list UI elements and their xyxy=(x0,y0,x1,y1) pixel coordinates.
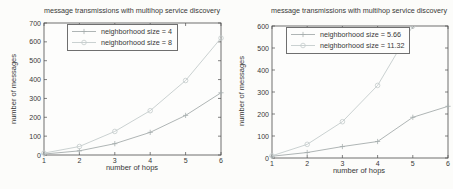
y-tick-label: 500 xyxy=(29,57,41,64)
y-tick-label: 600 xyxy=(257,23,269,30)
x-tick-label: 5 xyxy=(184,157,188,164)
x-tick-label: 2 xyxy=(77,157,81,164)
x-axis-label: number of hops xyxy=(106,163,158,172)
x-tick-label: 6 xyxy=(219,157,223,164)
chart-right: 1234560100200300400500600 message transm… xyxy=(227,0,453,189)
legend: neighborhood size = 5.66 neighborhood si… xyxy=(286,27,410,54)
x-axis-label: number of hops xyxy=(333,166,385,175)
legend-sample-plus xyxy=(72,29,96,34)
legend-sample-plus xyxy=(291,32,315,37)
legend-entry: neighborhood size = 11.32 xyxy=(290,40,404,51)
x-tick-label: 1 xyxy=(270,160,274,167)
plus-marker-icon xyxy=(290,30,316,39)
y-tick-label: 200 xyxy=(257,111,269,118)
legend-entry: neighborhood size = 8 xyxy=(71,37,172,48)
y-tick-label: 400 xyxy=(257,67,269,74)
y-tick-label: 400 xyxy=(29,76,41,83)
chart-left: 1234560100200300400500600700 message tra… xyxy=(0,0,226,189)
legend-label: neighborhood size = 8 xyxy=(101,38,172,47)
circle-marker-icon xyxy=(290,41,316,50)
chart-title: message transmissions with multihop serv… xyxy=(44,6,220,15)
plus-marker-icon xyxy=(71,27,97,36)
circle-marker-icon xyxy=(71,38,97,47)
x-tick-label: 2 xyxy=(305,160,309,167)
legend: neighborhood size = 4 neighborhood size … xyxy=(67,24,178,51)
legend-sample-circle xyxy=(72,40,96,45)
y-tick-label: 100 xyxy=(257,133,269,140)
legend-entry: neighborhood size = 4 xyxy=(71,26,172,37)
y-tick-label: 600 xyxy=(29,38,41,45)
y-tick-label: 500 xyxy=(257,45,269,52)
chart-title: message transmissions with multihop serv… xyxy=(271,6,447,15)
legend-sample-circle xyxy=(291,43,315,48)
plus-marker xyxy=(81,29,86,34)
y-tick-label: 300 xyxy=(257,89,269,96)
x-tick-label: 5 xyxy=(411,160,415,167)
figure-canvas: 1234560100200300400500600700 message tra… xyxy=(0,0,453,189)
plus-marker xyxy=(300,32,305,37)
legend-entry: neighborhood size = 5.66 xyxy=(290,29,404,40)
y-tick-label: 100 xyxy=(29,133,41,140)
x-tick-label: 6 xyxy=(446,160,450,167)
y-tick-label: 300 xyxy=(29,95,41,102)
y-axis-label: number of messages xyxy=(9,54,18,124)
legend-label: neighborhood size = 4 xyxy=(101,27,172,36)
legend-label: neighborhood size = 11.32 xyxy=(320,41,404,50)
y-tick-label: 700 xyxy=(29,20,41,27)
x-tick-label: 1 xyxy=(42,157,46,164)
y-tick-label: 200 xyxy=(29,114,41,121)
y-tick-label: 0 xyxy=(265,155,269,162)
y-tick-label: 0 xyxy=(37,152,41,159)
y-axis-label: number of messages xyxy=(237,56,246,126)
legend-label: neighborhood size = 5.66 xyxy=(320,30,401,39)
